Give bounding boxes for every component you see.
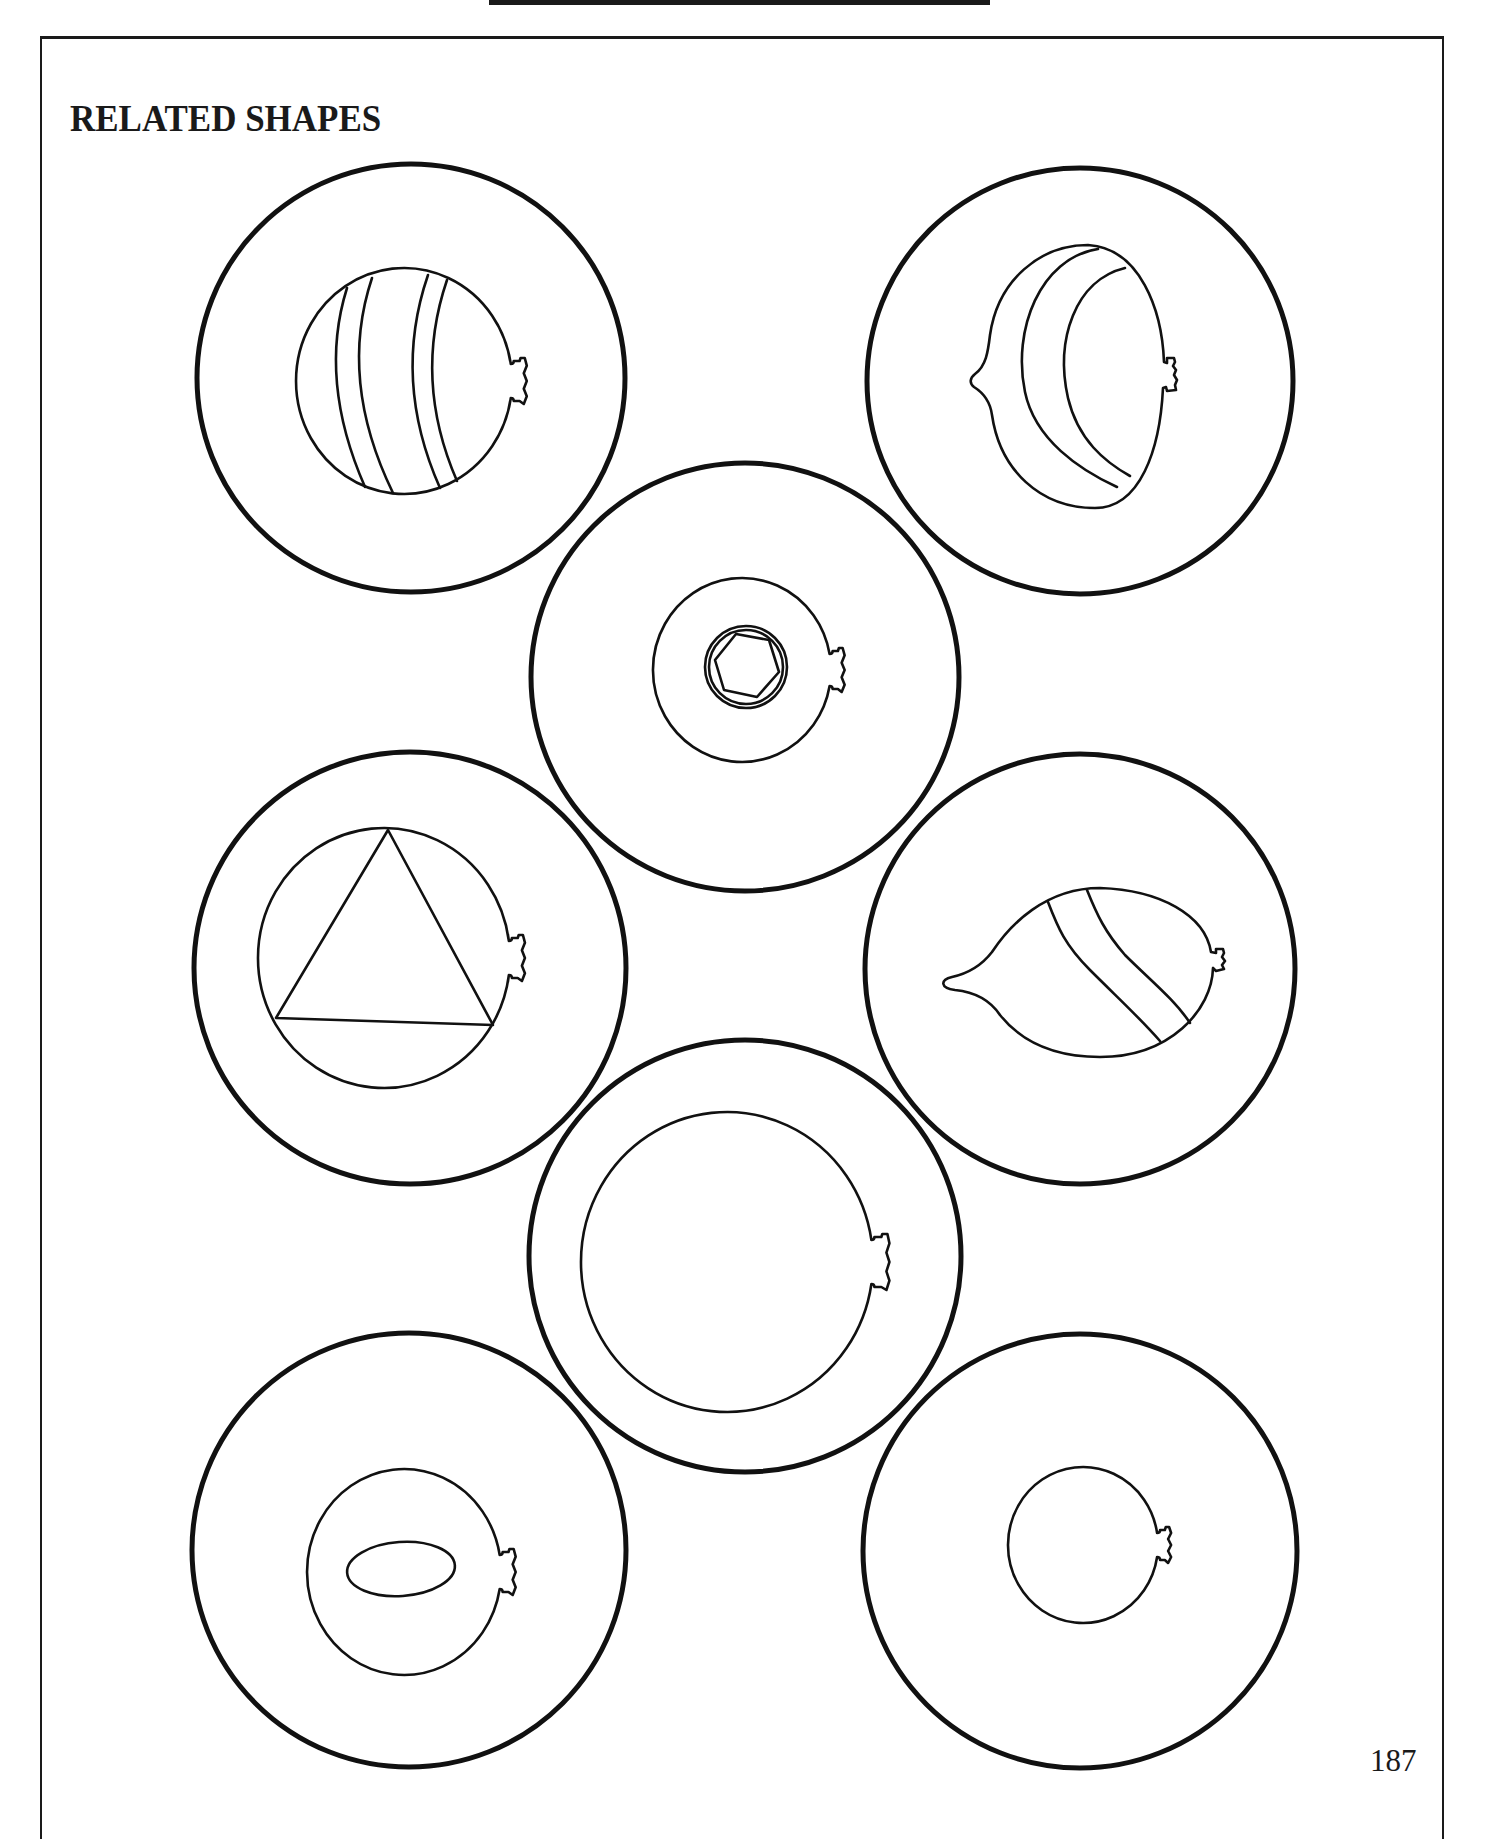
balloon-outline [653,578,845,762]
balloon-outline [581,1112,889,1412]
balloon-outline [307,1469,516,1675]
outer-circle [531,463,959,891]
circle-center-hexagon-balloon [531,463,959,891]
balloon-stripe [359,278,393,493]
hexagon-shape [715,634,779,697]
circle-top-right-crescent-balloon [867,168,1293,594]
outer-circle [863,1334,1297,1768]
outer-circle [192,1333,626,1767]
balloon-stripe [1087,890,1190,1023]
balloon-outline [258,828,525,1088]
balloon-outline [1008,1467,1171,1623]
circle-right-lemon-balloon [865,754,1295,1184]
balloon-outline [943,888,1225,1057]
outer-circle [529,1040,961,1472]
circle-top-left-striped-balloon [197,164,625,592]
triangle-shape [276,830,493,1025]
circle-left-triangle-balloon [194,752,626,1184]
balloon-stripe [413,275,440,488]
oval-shape [345,1538,457,1599]
circle-center-large-balloon [529,1040,961,1472]
balloon-stripe [1022,249,1117,487]
outer-circle [867,168,1293,594]
circle-bottom-left-oval-balloon [192,1333,626,1767]
balloon-stripe [432,280,457,481]
outer-circle [865,754,1295,1184]
outer-circle [197,164,625,592]
balloon-outline [296,268,527,494]
circle-bottom-right-small-balloon [863,1334,1297,1768]
balloon-stripe [1064,268,1130,476]
balloon-outline [971,245,1177,508]
inner-ring-2 [709,630,783,704]
